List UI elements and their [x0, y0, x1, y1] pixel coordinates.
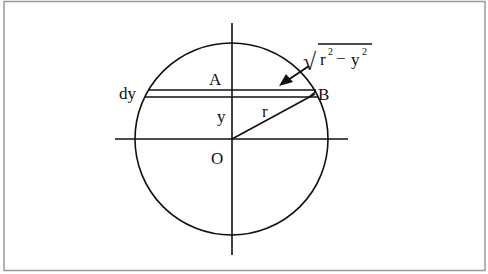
label-O: O	[211, 149, 223, 168]
circle-strip-diagram: A B O r y dy √ r 2 − y 2	[0, 0, 488, 274]
label-A: A	[209, 70, 222, 89]
half-chord-r-exponent: 2	[328, 46, 333, 57]
label-dy: dy	[119, 84, 137, 103]
half-chord-r: r	[320, 50, 326, 69]
label-r: r	[262, 102, 268, 121]
radical-sign-icon: √	[303, 49, 317, 75]
label-y: y	[217, 107, 226, 126]
label-B: B	[318, 85, 329, 104]
half-chord-minus: −	[336, 49, 346, 68]
figure-frame	[4, 2, 485, 271]
half-chord-y-exponent: 2	[362, 46, 367, 57]
half-chord-y: y	[351, 50, 360, 69]
